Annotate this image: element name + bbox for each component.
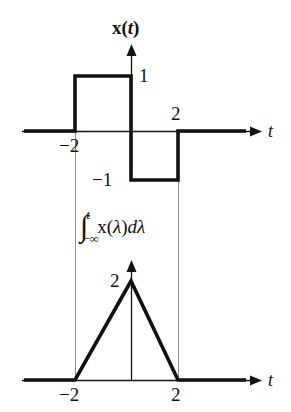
integral-expression-label: ∫t−∞x(λ)dλ — [80, 208, 145, 238]
integral-lower-limit: −∞ — [82, 232, 99, 245]
bottom-tick-label-minus-2: −2 — [59, 385, 79, 404]
top-plot-title-close: ) — [133, 17, 139, 38]
waveform-x-of-t — [24, 76, 246, 180]
top-label-amplitude-minus-1: −1 — [92, 170, 112, 189]
figure-canvas — [0, 0, 291, 412]
integral-upper-limit: t — [86, 208, 90, 221]
bottom-t-axis-arrowhead — [250, 376, 262, 386]
bottom-tick-label-2: 2 — [171, 385, 181, 404]
differential-d: d — [128, 216, 138, 237]
top-plot-title-fn: x — [112, 17, 122, 38]
differential-var: λ — [137, 216, 145, 237]
top-y-axis-arrowhead — [127, 44, 137, 56]
bottom-label-peak-2: 2 — [110, 271, 120, 290]
top-label-amplitude-1: 1 — [139, 66, 149, 85]
top-t-axis-arrowhead — [250, 127, 262, 137]
top-axis-label-t: t — [268, 122, 273, 140]
bottom-axis-label-t: t — [268, 371, 273, 389]
top-plot-title: x(t) — [112, 18, 139, 37]
waveform-running-integral — [24, 281, 246, 380]
top-tick-label-2: 2 — [171, 104, 181, 123]
signal-integral-figure: x(t) 1 −1 −2 2 t ∫t−∞x(λ)dλ 2 −2 2 t — [0, 0, 291, 412]
bottom-y-axis-arrowhead — [127, 260, 137, 272]
top-tick-label-minus-2: −2 — [59, 136, 79, 155]
